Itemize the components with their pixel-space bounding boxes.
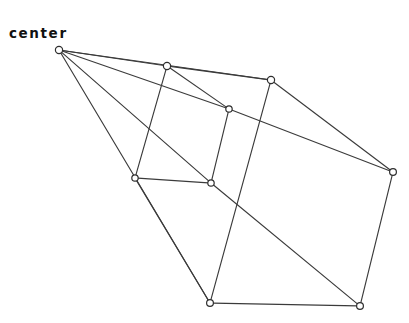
graph-canvas — [0, 0, 409, 323]
graph-edge-top-middle-to-mid-upper — [170, 68, 227, 108]
graph-edge-mid-upper-to-right — [232, 110, 391, 171]
graph-edge-mid-center-to-bottom-right — [213, 185, 358, 304]
graph-node-center[interactable] — [55, 46, 62, 53]
graph-edge-top-right-to-bottom-center — [211, 83, 270, 300]
graph-node-mid-upper[interactable] — [226, 106, 232, 112]
graph-edge-center-to-mid-center — [61, 52, 208, 181]
edge-layer — [61, 50, 393, 305]
graph-node-mid-center[interactable] — [208, 180, 214, 186]
graph-edge-center-to-mid-upper — [62, 51, 226, 108]
graph-node-bottom-center[interactable] — [207, 300, 214, 307]
graph-node-top-middle[interactable] — [163, 62, 170, 69]
graph-node-mid-left[interactable] — [132, 175, 138, 181]
graph-edge-right-to-bottom-right — [361, 175, 393, 303]
graph-edge-mid-upper-to-mid-center — [212, 112, 229, 181]
node-layer — [55, 46, 396, 309]
graph-node-top-right[interactable] — [267, 76, 274, 83]
graph-node-bottom-right[interactable] — [357, 303, 364, 310]
graph-edge-mid-left-to-bottom-center — [136, 180, 208, 300]
graph-edge-top-right-to-right — [274, 82, 391, 170]
graph-edge-mid-left-to-mid-center — [138, 178, 208, 183]
graph-node-right[interactable] — [390, 169, 397, 176]
graph-edge-top-middle-to-mid-left — [136, 69, 166, 175]
graph-edge-top-middle-to-top-right — [170, 66, 268, 79]
graph-edge-bottom-center-to-bottom-right — [213, 303, 357, 306]
graph-diagram: center — [0, 0, 409, 323]
node-label-center: center — [9, 27, 68, 41]
